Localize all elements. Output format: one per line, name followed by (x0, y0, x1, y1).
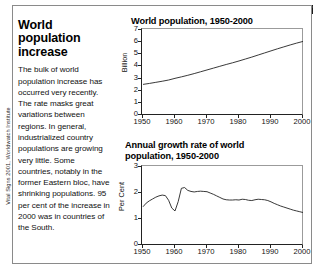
chart-y-axis-label: Per Cent (117, 177, 126, 217)
page-title: World population increase (18, 19, 110, 59)
chart-x-tick-mark (174, 115, 175, 118)
chart-x-tick-mark (174, 245, 175, 248)
chart-y-tick-label: 1 (126, 98, 138, 106)
chart-x-tick-label: 1970 (194, 248, 218, 256)
chart-y-tick-label: 5 (126, 49, 138, 57)
chart-y-tick-label: 1 (126, 214, 138, 222)
chart-y-tick-mark (138, 244, 141, 245)
chart-y-tick-label: 3 (126, 162, 138, 170)
chart-x-tick-label: 1970 (194, 118, 218, 126)
chart-y-tick-mark (138, 102, 141, 103)
chart-y-tick-mark (138, 114, 141, 115)
chart-y-tick-label: 6 (126, 37, 138, 45)
chart-plot-area (141, 28, 303, 115)
chart-y-tick-mark (138, 90, 141, 91)
chart-y-tick-mark (138, 78, 141, 79)
chart-title: World population, 1950-2000 (131, 16, 311, 27)
chart-x-tick-label: 1950 (130, 248, 154, 256)
chart-y-tick-mark (138, 41, 141, 42)
infographic-page: Vital Signs 2001, Worldwatch Institute W… (0, 0, 324, 272)
chart-x-tick-label: 2000 (290, 118, 314, 126)
chart-y-tick-label: 7 (126, 25, 138, 33)
chart-x-tick-mark (270, 115, 271, 118)
infographic-content: World population increase The bulk of wo… (13, 14, 312, 264)
chart-y-tick-label: 2 (126, 86, 138, 94)
chart-x-tick-label: 1980 (226, 118, 250, 126)
chart-x-tick-mark (206, 115, 207, 118)
chart-world-population: World population, 1950-2000 Billion 7654… (109, 14, 312, 142)
chart-x-tick-mark (270, 245, 271, 248)
chart-y-tick-mark (138, 65, 141, 66)
chart-x-tick-mark (206, 245, 207, 248)
chart-x-tick-mark (142, 115, 143, 118)
chart-y-tick-mark (138, 218, 141, 219)
chart-x-tick-mark (302, 245, 303, 248)
chart-line-series (142, 29, 304, 116)
chart-x-tick-label: 1980 (226, 248, 250, 256)
chart-x-tick-label: 2000 (290, 248, 314, 256)
article-text-column: World population increase The bulk of wo… (18, 19, 110, 234)
chart-y-tick-label: 2 (126, 188, 138, 196)
chart-y-tick-mark (138, 29, 141, 30)
chart-x-tick-mark (238, 115, 239, 118)
chart-y-tick-mark (138, 166, 141, 167)
chart-annual-growth-rate: Annual growth rate of world population, … (109, 140, 312, 264)
chart-x-tick-label: 1950 (130, 118, 154, 126)
chart-line-series (142, 166, 304, 246)
chart-y-tick-label: 4 (126, 61, 138, 69)
chart-x-tick-mark (238, 245, 239, 248)
chart-x-tick-label: 1990 (258, 118, 282, 126)
chart-y-tick-label: 3 (126, 74, 138, 82)
chart-y-tick-mark (138, 192, 141, 193)
chart-x-tick-label: 1960 (162, 118, 186, 126)
chart-title: Annual growth rate of world population, … (125, 140, 305, 161)
chart-plot-area (141, 165, 303, 245)
chart-y-tick-mark (138, 53, 141, 54)
chart-x-tick-label: 1990 (258, 248, 282, 256)
chart-x-tick-mark (142, 245, 143, 248)
chart-x-tick-mark (302, 115, 303, 118)
article-body: The bulk of world population increase ha… (18, 64, 110, 233)
chart-x-tick-label: 1960 (162, 248, 186, 256)
